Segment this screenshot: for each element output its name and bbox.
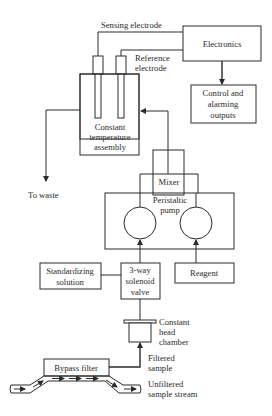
reference-electrode-cap	[116, 56, 126, 74]
filtered-label-line1: Filtered	[148, 353, 175, 363]
valve-label-line2: solenoid	[125, 276, 155, 286]
valve-label-line1: 3-way	[129, 265, 151, 275]
constant-head-chamber	[124, 320, 156, 342]
solenoid-valve-box: 3-way solenoid valve	[121, 263, 160, 299]
standardizing-label-line2: solution	[56, 277, 84, 287]
sensing-electrode-label: Sensing electrode	[101, 20, 162, 30]
pump-label-line1: Peristaltic	[153, 195, 188, 205]
bypass-filter-label: Bypass filter	[54, 363, 98, 373]
pump-roller-left	[124, 207, 156, 239]
assembly-label-line3: assembly	[94, 142, 127, 152]
chamber-label-line2: head	[159, 327, 176, 337]
assembly-label-line2: temperature	[89, 132, 130, 142]
sensing-electrode-cap	[93, 56, 103, 74]
analyzer-flow-diagram: Electronics Control and alarming outputs…	[0, 0, 272, 416]
reference-electrode	[118, 74, 124, 118]
reagent-box: Reagent	[175, 263, 234, 283]
to-waste-label: To waste	[28, 190, 59, 200]
standardizing-label-line1: Standardizing	[46, 266, 94, 276]
valve-label-line3: valve	[131, 287, 150, 297]
reference-electrode-label-line2: electrode	[135, 63, 167, 73]
control-label-line1: Control and	[203, 88, 245, 98]
control-label-line3: outputs	[210, 110, 236, 120]
standardizing-solution-box: Standardizing solution	[40, 263, 101, 289]
filtered-sample-arrow	[109, 343, 140, 367]
electronics-box: Electronics	[183, 26, 261, 61]
reagent-label: Reagent	[190, 268, 219, 278]
peristaltic-pump-box: Peristaltic pump	[105, 193, 234, 249]
reference-electrode-label-line1: Reference	[135, 53, 170, 63]
bypass-filter-box: Bypass filter	[44, 359, 109, 376]
constant-temperature-assembly: Constant temperature assembly	[80, 56, 139, 152]
sample-stream-pipe	[10, 376, 141, 393]
unfiltered-label-line2: sample stream	[148, 389, 198, 399]
assembly-label-line1: Constant	[95, 122, 126, 132]
pump-roller-right	[180, 207, 212, 239]
filtered-label-line2: sample	[148, 363, 173, 373]
electronics-label: Electronics	[203, 39, 242, 49]
control-outputs-box: Control and alarming outputs	[191, 85, 256, 123]
chamber-label-line3: chamber	[159, 337, 189, 347]
control-label-line2: alarming	[208, 99, 239, 109]
sensing-electrode	[95, 74, 101, 118]
to-waste-arrow	[46, 110, 80, 181]
chamber-label-line1: Constant	[159, 317, 190, 327]
pump-label-line2: pump	[160, 205, 180, 215]
mixer-label: Mixer	[158, 177, 179, 187]
unfiltered-label-line1: Unfiltered	[148, 379, 184, 389]
